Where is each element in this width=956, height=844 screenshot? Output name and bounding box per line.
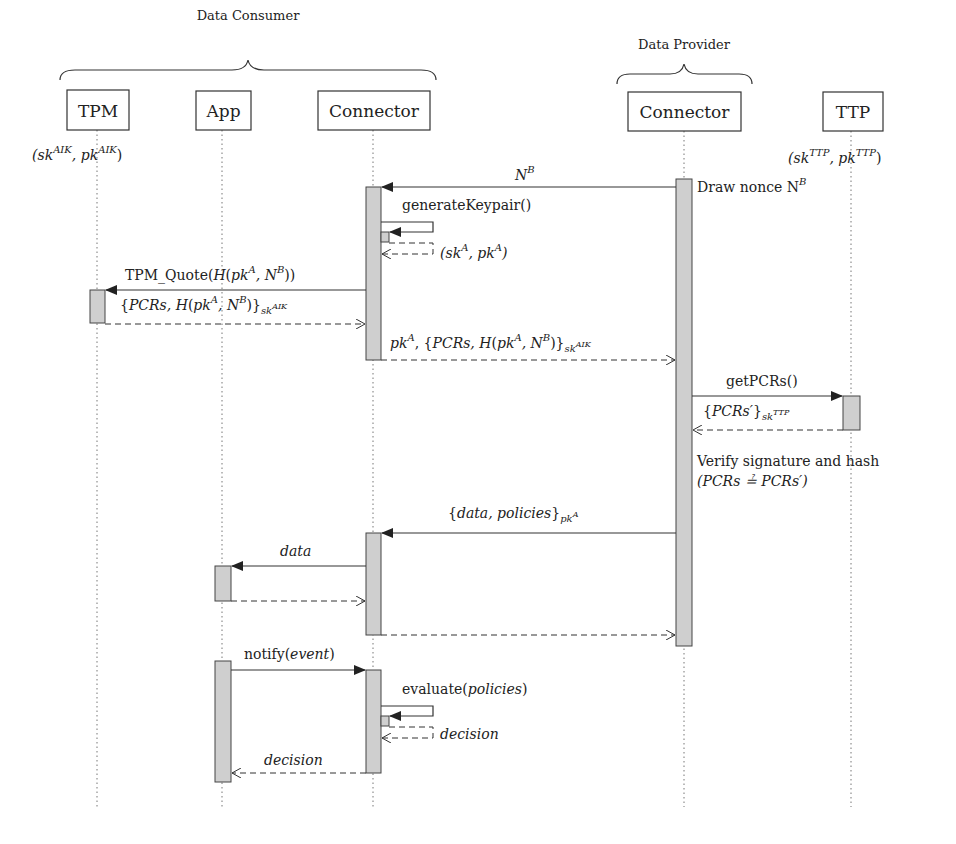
- message-tpm-quote: TPM_Quote(H(pkA, NB)): [106, 264, 366, 290]
- group-label-data-provider: Data Provider: [638, 37, 731, 52]
- message-label: pkA, {PCRs, H(pkA, NB)}skAIK: [390, 332, 592, 354]
- actor-consumer-connector: Connector: [318, 91, 430, 130]
- message-label: {PCRs′}skTTP: [703, 403, 790, 422]
- activation-tpm: [90, 290, 105, 323]
- message-nonce: NB: [382, 164, 676, 187]
- brace-data-provider: [617, 64, 752, 84]
- message-evaluate-policies: evaluate(policies): [381, 681, 527, 716]
- activation-ttp: [843, 396, 860, 430]
- message-data-to-app: data: [232, 543, 366, 566]
- note-draw-nonce: Draw nonce NB: [697, 176, 806, 195]
- message-evaluate-return: decision: [382, 726, 499, 742]
- ttp-keys: (skTTP, pkTTP): [788, 147, 882, 166]
- actor-tpm: TPM: [67, 90, 129, 130]
- arrow-self: [381, 706, 433, 716]
- tpm-keys: (skAIK, pkAIK): [32, 144, 122, 163]
- note-verify: Verify signature and hash (PCRs ≟ PCRs′): [696, 453, 879, 489]
- message-notify-event: notify(event): [231, 646, 365, 670]
- message-tpm-quote-return: {PCRs, H(pkA, NB)}skAIK: [105, 294, 365, 324]
- message-label: getPCRs(): [726, 373, 798, 389]
- message-data-policies: {data, policies}pkA: [382, 505, 676, 533]
- actor-label-provider-connector: Connector: [640, 102, 731, 122]
- actor-label-ttp: TTP: [836, 102, 870, 122]
- arrow-self-return: [382, 727, 433, 738]
- brace-data-consumer: [60, 60, 436, 80]
- message-label: data: [280, 543, 311, 559]
- message-get-pcrs-return: {PCRs′}skTTP: [693, 403, 843, 430]
- message-label: {data, policies}pkA: [448, 505, 579, 524]
- message-label: decision: [264, 752, 323, 768]
- activation-consumer-connector-1: [366, 187, 381, 360]
- activation-consumer-connector-3: [366, 670, 381, 773]
- message-label: decision: [440, 726, 499, 742]
- message-generate-keypair: generateKeypair(): [381, 197, 531, 232]
- message-keypair-return: (skA, pkA): [382, 242, 507, 261]
- actor-ttp: TTP: [823, 92, 883, 131]
- activation-consumer-connector-self-1: [381, 232, 389, 242]
- activation-provider-connector: [676, 179, 692, 646]
- message-send-quote: pkA, {PCRs, H(pkA, NB)}skAIK: [381, 332, 675, 360]
- group-data-consumer: Data Consumer: [60, 8, 436, 80]
- message-decision-to-app: decision: [232, 752, 366, 773]
- message-label: TPM_Quote(H(pkA, NB)): [125, 264, 295, 284]
- sequence-diagram: Data Consumer Data Provider TPM App Conn…: [0, 0, 956, 844]
- arrow-self: [381, 222, 433, 232]
- activation-consumer-connector-self-2: [381, 716, 389, 726]
- message-get-pcrs: getPCRs(): [692, 373, 842, 396]
- message-label: (skA, pkA): [440, 242, 507, 261]
- note-verify-line2: (PCRs ≟ PCRs′): [697, 473, 808, 489]
- message-label: {PCRs, H(pkA, NB)}skAIK: [120, 294, 288, 316]
- actor-app: App: [196, 91, 251, 130]
- actor-label-app: App: [205, 101, 240, 121]
- activation-app-2: [215, 661, 231, 782]
- message-label: notify(event): [244, 646, 335, 662]
- activation-consumer-connector-2: [366, 533, 381, 635]
- note-verify-line1: Verify signature and hash: [696, 453, 879, 469]
- actor-label-tpm: TPM: [78, 101, 118, 121]
- actor-provider-connector: Connector: [628, 92, 741, 131]
- group-label-data-consumer: Data Consumer: [197, 8, 300, 23]
- arrow-self-return: [382, 243, 433, 254]
- message-label: generateKeypair(): [402, 197, 531, 213]
- activation-app-1: [215, 566, 231, 601]
- actor-label-consumer-connector: Connector: [329, 101, 420, 121]
- group-data-provider: Data Provider: [617, 37, 752, 84]
- message-label: evaluate(policies): [402, 681, 527, 697]
- message-label: NB: [514, 164, 535, 183]
